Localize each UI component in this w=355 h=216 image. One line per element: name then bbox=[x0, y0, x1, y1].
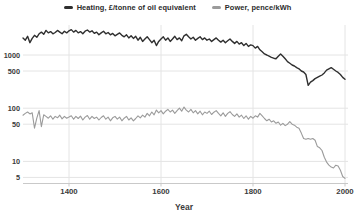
y-tick-label: 5 bbox=[16, 173, 20, 182]
y-tick-label: 10 bbox=[12, 157, 20, 166]
x-axis-title: Year bbox=[175, 202, 194, 212]
y-tick-label: 1000 bbox=[4, 51, 20, 60]
heating-series-line bbox=[23, 30, 345, 86]
y-tick-label: 100 bbox=[8, 104, 20, 113]
y-tick-label: 500 bbox=[8, 67, 20, 76]
plot-area: 1000500100501051400160018002000Year bbox=[0, 0, 355, 216]
x-tick-label: 1400 bbox=[60, 187, 78, 196]
x-tick-label: 2000 bbox=[336, 187, 354, 196]
energy-price-chart: Heating, £/tonne of oil equivalent Power… bbox=[0, 0, 355, 216]
y-tick-label: 50 bbox=[12, 120, 20, 129]
x-tick-label: 1800 bbox=[244, 187, 262, 196]
x-tick-label: 1600 bbox=[152, 187, 170, 196]
power-series-line bbox=[23, 107, 345, 178]
